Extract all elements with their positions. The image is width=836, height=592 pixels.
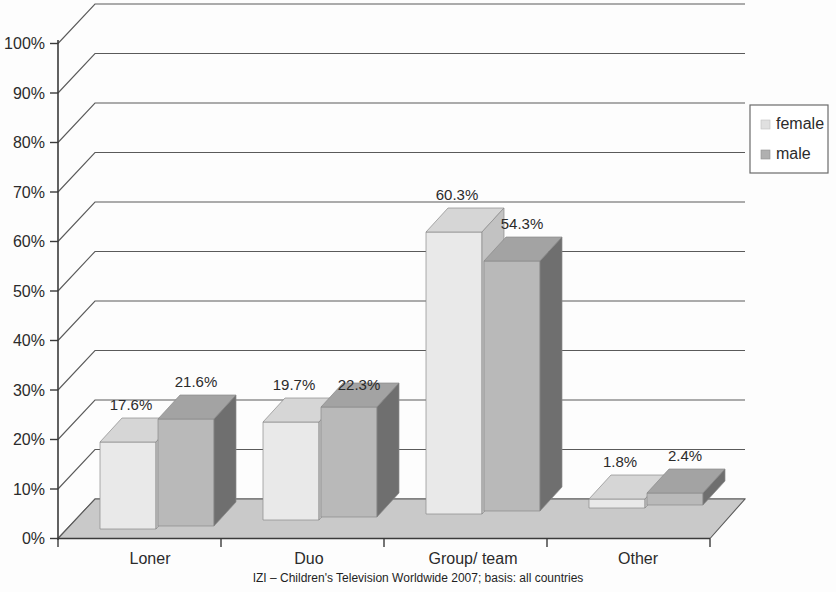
bar-front-face (647, 493, 703, 505)
gridline-110 (58, 4, 745, 44)
xtick-label-other: Other (618, 550, 659, 567)
gridline-100 (58, 54, 745, 94)
legend-swatch-male (761, 150, 770, 159)
gridline-40 (58, 351, 745, 391)
value-label-groupteam-female: 60.3% (436, 186, 479, 203)
gridline-50 (58, 301, 745, 341)
gridline-80 (58, 153, 745, 193)
xtick-label-duo: Duo (294, 550, 323, 567)
ytick-label-20: 20% (13, 431, 45, 448)
legend-swatch-female (761, 120, 770, 129)
gridline-70 (58, 202, 745, 242)
value-label-duo-male: 22.3% (338, 376, 381, 393)
ytick-label-70: 70% (13, 184, 45, 201)
ytick-label-60: 60% (13, 233, 45, 250)
ytick-label-50: 50% (13, 283, 45, 300)
bar-duo-male[interactable] (321, 383, 399, 517)
legend-label-female: female (776, 115, 824, 132)
value-label-loner-male: 21.6% (175, 373, 218, 390)
bar-side-face (540, 237, 562, 511)
value-label-loner-female: 17.6% (110, 396, 153, 413)
source-footnote: IZI – Children's Television Worldwide 20… (253, 571, 584, 585)
gridline-60 (58, 252, 745, 292)
bar-front-face (100, 442, 156, 529)
bar-front-face (589, 499, 645, 508)
ytick-label-0: 0% (22, 530, 45, 547)
bar-loner-male[interactable] (158, 395, 236, 526)
xtick-label-groupteam: Group/ team (429, 550, 518, 567)
ytick-label-80: 80% (13, 134, 45, 151)
value-label-other-female: 1.8% (603, 453, 637, 470)
bar-front-face (158, 419, 214, 526)
bar-front-face (263, 422, 319, 520)
chart-page: 100% 90% 80% 70% 60% 50% 40% 30% 20% 10%… (0, 0, 836, 592)
legend-label-male: male (776, 145, 811, 162)
value-label-other-male: 2.4% (668, 447, 702, 464)
bar-chart-3d: 100% 90% 80% 70% 60% 50% 40% 30% 20% 10%… (0, 0, 836, 592)
bar-side-face (377, 383, 399, 517)
bar-front-face (321, 407, 377, 517)
bar-groupteam-male[interactable] (484, 237, 562, 511)
ytick-label-10: 10% (13, 481, 45, 498)
ytick-label-90: 90% (13, 85, 45, 102)
ytick-label-30: 30% (13, 382, 45, 399)
xtick-label-loner: Loner (130, 550, 172, 567)
value-label-groupteam-male: 54.3% (501, 215, 544, 232)
bar-front-face (426, 232, 482, 514)
y-tick-labels: 100% 90% 80% 70% 60% 50% 40% 30% 20% 10%… (4, 35, 45, 547)
value-label-duo-female: 19.7% (273, 376, 316, 393)
legend[interactable]: female male (750, 105, 828, 173)
gridline-90 (58, 103, 745, 143)
x-tick-labels: Loner Duo Group/ team Other (130, 550, 659, 567)
bar-front-face (484, 261, 540, 511)
ytick-label-100: 100% (4, 35, 45, 52)
x-axis (58, 539, 710, 548)
y-axis (50, 40, 58, 540)
ytick-label-40: 40% (13, 332, 45, 349)
